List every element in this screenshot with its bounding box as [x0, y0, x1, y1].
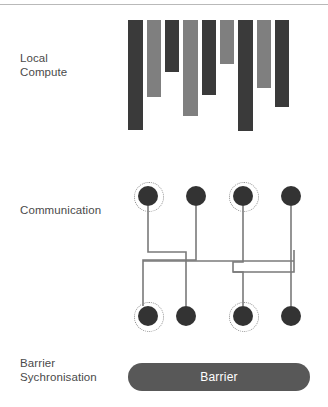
communication-node-top[interactable]	[138, 186, 158, 206]
communication-node-top[interactable]	[281, 186, 301, 206]
communication-node-top[interactable]	[186, 186, 206, 206]
communication-node-bottom[interactable]	[138, 306, 158, 326]
barrier-bar[interactable]: Barrier	[128, 363, 310, 391]
communication-node-bottom[interactable]	[233, 306, 253, 326]
communication-node-bottom[interactable]	[281, 306, 301, 326]
communication-node-top[interactable]	[233, 186, 253, 206]
communication-node-group	[0, 0, 328, 407]
diagram-canvas: Local Compute Communication Barrier Sych…	[0, 0, 328, 407]
barrier-bar-label: Barrier	[200, 370, 237, 384]
communication-node-bottom[interactable]	[176, 306, 196, 326]
